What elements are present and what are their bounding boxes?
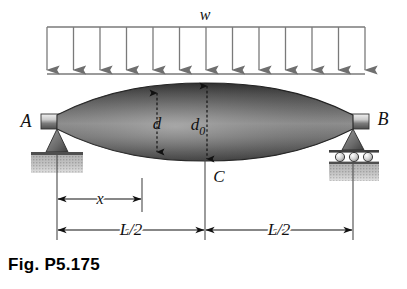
depth-d0-subscript: 0 [199, 124, 205, 138]
support-b-rollers [335, 152, 372, 161]
dimension-half-span-left: L/2 [58, 220, 204, 239]
beam-group [41, 83, 369, 161]
dimension-x-label: x [95, 190, 103, 207]
figure-container: w [0, 0, 407, 289]
support-b-base-plate [329, 162, 379, 165]
support-a-base-plate [31, 152, 83, 155]
roller [335, 152, 344, 161]
beam-diagram-svg: w [0, 0, 407, 289]
figure-caption: Fig. P5.175 [8, 255, 100, 275]
load-label-w: w [200, 6, 211, 23]
roller [349, 152, 358, 161]
dimension-half-span-right-label: L/2 [267, 220, 291, 239]
midspan-point-label-c: C [213, 167, 225, 186]
dimension-x: x [58, 190, 141, 207]
load-arrows [47, 27, 365, 70]
support-a-label: A [20, 111, 33, 131]
support-b-ground-fade [329, 164, 379, 181]
roller [363, 152, 372, 161]
support-b-label: B [378, 109, 389, 129]
dimension-half-span-right: L/2 [206, 220, 352, 239]
dimension-half-span-left-label: L/2 [119, 220, 143, 239]
distributed-load-group: w [47, 6, 365, 74]
beam-highlight [57, 83, 353, 161]
depth-d-label: d [153, 114, 162, 133]
